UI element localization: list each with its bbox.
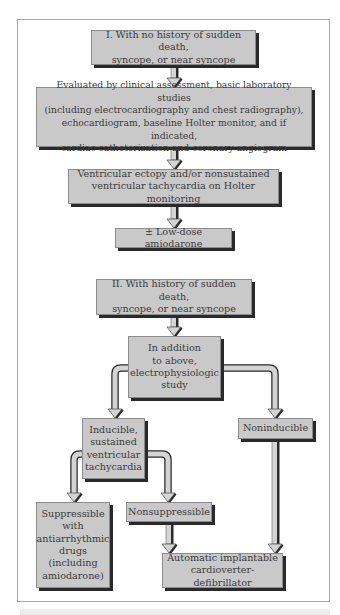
box-electrophysiologic-study: In addition to above, electrophysiologic… bbox=[128, 336, 221, 398]
arrow-header2-to-study bbox=[167, 317, 183, 338]
arrow-nonsuppressible-to-icd bbox=[162, 524, 178, 555]
box-nonsuppressible: Nonsuppressible bbox=[126, 502, 212, 522]
box-icd: Automatic implantable cardioverter-defib… bbox=[162, 553, 283, 588]
box-low-dose-amiodarone: ± Low-dose amiodarone bbox=[115, 228, 232, 248]
arrow-study-to-inducible bbox=[108, 368, 128, 420]
box-history-header: II. With history of sudden death, syncop… bbox=[96, 279, 252, 315]
box-ventricular-ectopy: Ventricular ectopy and/or nonsustained v… bbox=[68, 169, 279, 204]
box-noninducible: Noninducible bbox=[238, 418, 313, 439]
box-evaluation: Evaluated by clinical assessment, basic … bbox=[36, 87, 312, 147]
box-suppressible: Suppressible with antiarrhythmic drugs (… bbox=[36, 502, 110, 588]
caption-band bbox=[20, 609, 330, 615]
box-no-history-header: I. With no history of sudden death, sync… bbox=[91, 30, 256, 65]
arrow-inducible-to-suppressible bbox=[67, 454, 83, 504]
arrow-inducible-to-nonsuppressible bbox=[146, 454, 177, 504]
arrow-noninducible-to-icd bbox=[268, 441, 284, 555]
box-inducible-vt: Inducible, sustained ventricular tachyca… bbox=[82, 418, 145, 479]
arrow-study-to-noninducible bbox=[222, 368, 284, 420]
